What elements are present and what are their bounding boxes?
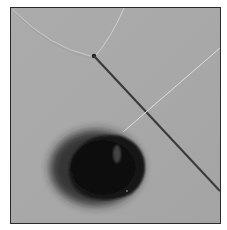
curved-thread	[13, 10, 91, 56]
object-highlight	[113, 145, 121, 163]
photo-frame	[10, 7, 221, 224]
photo-content	[11, 8, 220, 223]
diagonal-thread	[123, 48, 220, 132]
upper-thread	[96, 8, 124, 55]
